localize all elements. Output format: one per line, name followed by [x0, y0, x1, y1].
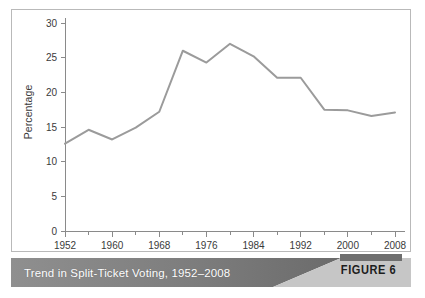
line-chart-plot: 0510152025301952196019681976198419922000… [12, 10, 410, 251]
svg-text:1992: 1992 [290, 240, 313, 251]
svg-text:2000: 2000 [337, 240, 360, 251]
figure-root: Percentage 05101520253019521960196819761… [0, 0, 425, 298]
caption-title: Trend in Split-Ticket Voting, 1952–2008 [24, 258, 230, 287]
svg-text:25: 25 [46, 52, 58, 63]
figure-badge-label: FIGURE 6 [340, 263, 397, 277]
figure-badge-bar [340, 254, 402, 261]
svg-text:1968: 1968 [148, 240, 171, 251]
svg-text:1976: 1976 [195, 240, 218, 251]
svg-text:1952: 1952 [54, 240, 77, 251]
svg-text:1984: 1984 [242, 240, 265, 251]
figure-badge: FIGURE 6 [340, 254, 404, 287]
svg-text:30: 30 [46, 18, 58, 29]
caption-bar: Trend in Split-Ticket Voting, 1952–2008 … [11, 258, 411, 287]
svg-text:2008: 2008 [384, 240, 407, 251]
svg-text:0: 0 [51, 226, 57, 237]
svg-text:20: 20 [46, 87, 58, 98]
svg-text:1960: 1960 [101, 240, 124, 251]
svg-text:10: 10 [46, 156, 58, 167]
chart-frame: Percentage 05101520253019521960196819761… [11, 9, 411, 252]
svg-text:5: 5 [51, 191, 57, 202]
svg-text:15: 15 [46, 122, 58, 133]
